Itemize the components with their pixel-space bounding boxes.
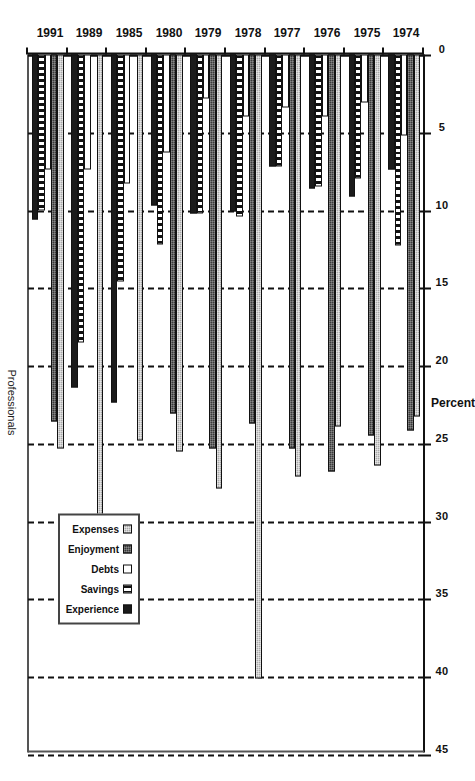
category-tick-1979 bbox=[224, 47, 226, 54]
bar-group-1976: 1976 bbox=[305, 54, 345, 752]
bar-expenses-1980 bbox=[176, 54, 182, 451]
bar-debts-1977 bbox=[282, 54, 288, 107]
bar-experience-1976 bbox=[309, 54, 315, 188]
bar-savings-1979 bbox=[197, 54, 203, 213]
bar-group-1975: 1975 bbox=[345, 54, 385, 752]
tick-mark-30 bbox=[424, 521, 431, 523]
value-axis-title-text: Percent bbox=[431, 395, 475, 409]
legend-swatch-debts-icon bbox=[123, 564, 132, 573]
bar-experience-1975 bbox=[349, 54, 355, 196]
legend-swatch-enjoyment-icon bbox=[123, 544, 132, 553]
category-tick-end bbox=[26, 47, 28, 54]
bar-group-1991: 1991 bbox=[28, 54, 68, 752]
figure-caption-text: Professionals bbox=[6, 369, 18, 435]
bar-enjoyment-1979 bbox=[209, 54, 215, 448]
bar-savings-1980 bbox=[157, 54, 163, 244]
bar-savings-1974 bbox=[395, 54, 401, 245]
bar-savings-1976 bbox=[315, 54, 321, 186]
bar-debts-1991 bbox=[45, 54, 51, 169]
tick-label-25: 25 bbox=[435, 431, 448, 443]
tick-mark-35 bbox=[424, 598, 431, 600]
bar-experience-1980 bbox=[151, 54, 157, 205]
tick-label-10: 10 bbox=[435, 198, 448, 210]
legend-swatch-expenses-icon bbox=[123, 524, 132, 533]
legend-entry-savings[interactable]: Savings bbox=[81, 583, 132, 594]
bar-enjoyment-1978 bbox=[249, 54, 255, 423]
bar-expenses-1985 bbox=[137, 54, 143, 440]
bar-enjoyment-1974 bbox=[407, 54, 413, 430]
category-label-text: 1976 bbox=[314, 25, 341, 39]
gridline-45 bbox=[28, 754, 424, 756]
bar-enjoyment-1980 bbox=[170, 54, 176, 413]
tick-mark-40 bbox=[424, 676, 431, 678]
tick-mark-45 bbox=[424, 754, 431, 756]
category-label-1975: 1975 bbox=[360, 14, 374, 50]
bar-debts-1976 bbox=[322, 54, 328, 116]
bar-expenses-1991 bbox=[57, 54, 63, 448]
bar-debts-1978 bbox=[243, 54, 249, 116]
tick-mark-25 bbox=[424, 443, 431, 445]
bar-enjoyment-1977 bbox=[289, 54, 295, 448]
bar-savings-1985 bbox=[117, 54, 123, 281]
tick-label-0: 0 bbox=[439, 42, 446, 54]
legend-entry-debts[interactable]: Debts bbox=[91, 563, 132, 574]
tick-mark-20 bbox=[424, 365, 431, 367]
category-tick-1977 bbox=[303, 47, 305, 54]
category-label-1979: 1979 bbox=[201, 14, 215, 50]
bar-experience-1979 bbox=[190, 54, 196, 213]
bar-enjoyment-1976 bbox=[328, 54, 334, 471]
tick-label-15: 15 bbox=[435, 275, 448, 287]
category-label-text: 1978 bbox=[234, 25, 261, 39]
bar-debts-1975 bbox=[361, 54, 367, 102]
bar-debts-1979 bbox=[203, 54, 209, 98]
tick-mark-5 bbox=[424, 132, 431, 134]
bar-debts-1974 bbox=[401, 54, 407, 135]
bar-savings-1977 bbox=[276, 54, 282, 166]
legend-entry-enjoyment[interactable]: Enjoyment bbox=[68, 543, 132, 554]
category-label-1978: 1978 bbox=[241, 14, 255, 50]
tick-mark-15 bbox=[424, 287, 431, 289]
bar-expenses-1977 bbox=[295, 54, 301, 476]
bar-expenses-1976 bbox=[335, 54, 341, 426]
figure-caption: Professionals bbox=[6, 52, 18, 752]
bar-experience-1978 bbox=[230, 54, 236, 211]
value-axis-title: Percent bbox=[446, 52, 460, 752]
category-label-text: 1975 bbox=[353, 25, 380, 39]
category-label-1985: 1985 bbox=[122, 14, 136, 50]
category-label-1977: 1977 bbox=[280, 14, 294, 50]
category-label-1989: 1989 bbox=[82, 14, 96, 50]
category-tick-1980 bbox=[184, 47, 186, 54]
legend-entry-expenses[interactable]: Expenses bbox=[72, 523, 132, 534]
category-label-text: 1989 bbox=[76, 25, 103, 39]
bar-expenses-1974 bbox=[414, 54, 420, 416]
bar-savings-1991 bbox=[38, 54, 44, 210]
category-label-1980: 1980 bbox=[162, 14, 176, 50]
tick-mark-0 bbox=[424, 54, 431, 56]
bar-group-1978: 1978 bbox=[226, 54, 266, 752]
category-label-text: 1991 bbox=[36, 25, 63, 39]
category-tick-1985 bbox=[145, 47, 147, 54]
category-tick-1975 bbox=[382, 47, 384, 54]
bar-experience-1977 bbox=[269, 54, 275, 166]
bar-savings-1989 bbox=[78, 54, 84, 342]
legend-label-debts: Debts bbox=[91, 563, 119, 574]
bar-expenses-1975 bbox=[374, 54, 380, 465]
bar-debts-1989 bbox=[84, 54, 90, 169]
bar-group-1979: 1979 bbox=[186, 54, 226, 752]
legend-swatch-savings-icon bbox=[123, 584, 132, 593]
bar-debts-1985 bbox=[124, 54, 130, 183]
category-tick-1989 bbox=[105, 47, 107, 54]
legend-entry-experience[interactable]: Experience bbox=[66, 603, 132, 614]
bar-experience-1985 bbox=[111, 54, 117, 402]
bar-debts-1980 bbox=[163, 54, 169, 152]
category-label-1976: 1976 bbox=[320, 14, 334, 50]
category-label-text: 1979 bbox=[195, 25, 222, 39]
tick-label-20: 20 bbox=[435, 353, 448, 365]
tick-label-35: 35 bbox=[435, 586, 448, 598]
bar-experience-1974 bbox=[388, 54, 394, 169]
category-label-text: 1980 bbox=[155, 25, 182, 39]
legend-label-enjoyment: Enjoyment bbox=[68, 543, 119, 554]
bar-group-1980: 1980 bbox=[147, 54, 187, 752]
tick-mark-10 bbox=[424, 210, 431, 212]
